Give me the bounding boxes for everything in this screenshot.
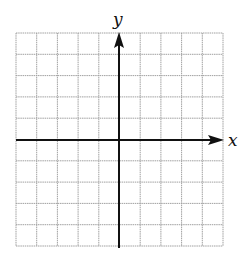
x-axis-label: x <box>228 130 238 150</box>
coordinate-plane: x y <box>0 0 238 258</box>
y-axis-label: y <box>112 9 123 29</box>
